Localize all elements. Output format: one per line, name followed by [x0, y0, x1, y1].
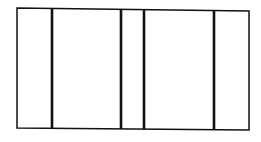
partitioned-rectangle-diagram: [0, 0, 261, 142]
vertical-dividers: [52, 9, 214, 130]
